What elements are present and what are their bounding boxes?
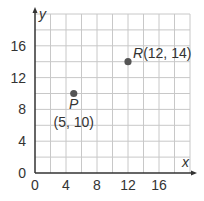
point-p-label: P	[69, 96, 79, 112]
x-axis-label: x	[181, 154, 190, 170]
y-tick-label: 4	[18, 133, 26, 149]
x-tick-label: 4	[62, 177, 70, 193]
y-tick-label: 8	[18, 101, 26, 117]
y-tick-label: 16	[10, 38, 26, 54]
y-tick-label: 0	[18, 165, 26, 181]
x-tick-label: 12	[120, 177, 136, 193]
point-r	[124, 58, 131, 65]
x-tick-label: 8	[93, 177, 101, 193]
x-tick-label: 16	[151, 177, 167, 193]
grid	[35, 14, 190, 173]
coordinate-plane: xy04812160481216P(5, 10)R(12, 14)	[0, 0, 204, 201]
x-tick-label: 0	[31, 177, 39, 193]
point-r-label: R(12, 14)	[133, 45, 191, 61]
y-axis-arrow-icon	[33, 7, 38, 13]
y-axis-label: y	[38, 6, 47, 22]
x-axis-arrow-icon	[191, 171, 197, 176]
y-tick-label: 12	[10, 70, 26, 86]
point-p-coords: (5, 10)	[54, 114, 94, 130]
